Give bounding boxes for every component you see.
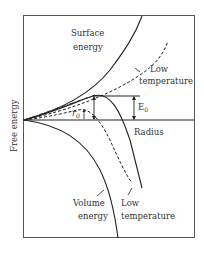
radius-axis-label: Radius bbox=[134, 127, 164, 137]
nucleation-diagram: Surface energy Low temperature E0 r0 Rad… bbox=[0, 0, 204, 253]
barrier-label: E0 bbox=[138, 102, 148, 113]
plot-frame bbox=[24, 16, 195, 238]
leader-tick bbox=[97, 190, 104, 196]
volume-energy-label-2: energy bbox=[78, 211, 108, 221]
low-temp-volume-label-1: Low bbox=[121, 198, 140, 208]
low-temp-volume-label-2: temperature bbox=[121, 211, 175, 221]
low-temp-surface-label-2: temperature bbox=[139, 76, 193, 86]
surface-energy-label-2: energy bbox=[73, 42, 103, 52]
surface-energy-label-1: Surface bbox=[71, 28, 104, 38]
y-axis-label: Free energy bbox=[9, 99, 19, 152]
arrow-up-icon bbox=[132, 96, 136, 100]
leader-tick bbox=[135, 68, 140, 72]
total-free-energy-curve bbox=[24, 95, 142, 188]
low-temp-surface-label-1: Low bbox=[150, 64, 169, 74]
volume-energy-label-1: Volume bbox=[72, 198, 105, 208]
leader-tick bbox=[128, 188, 132, 195]
